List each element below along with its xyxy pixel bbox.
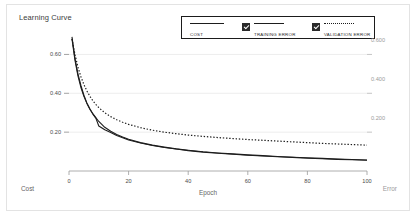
curve-paths	[72, 37, 367, 160]
y-axis-tick-left: 0.60	[50, 51, 61, 57]
y-axis-tick-left: 0.40	[50, 90, 61, 96]
axis-ticks	[64, 54, 372, 175]
y-axis-tick-right: 0.200	[371, 115, 385, 121]
y-axis-tick-left: 0.20	[50, 129, 61, 135]
x-axis-tick: 100	[362, 178, 371, 184]
y-axis-label-right: Error	[383, 185, 397, 192]
x-axis-tick: 40	[185, 178, 191, 184]
x-axis-tick: 60	[245, 178, 251, 184]
chart-card: Learning Curve COST TRAINING ERROR VALID…	[6, 4, 410, 211]
series-path	[72, 39, 367, 160]
x-axis-tick: 20	[125, 178, 131, 184]
gridlines	[69, 54, 367, 132]
x-axis-tick: 0	[67, 178, 70, 184]
y-axis-tick-right: 0.600	[371, 37, 385, 43]
x-axis-label: Epoch	[199, 189, 217, 196]
y-axis-label-left: Cost	[21, 185, 34, 192]
series-path	[72, 37, 367, 160]
y-axis-tick-right: 0.400	[371, 76, 385, 82]
x-axis-tick: 80	[304, 178, 310, 184]
